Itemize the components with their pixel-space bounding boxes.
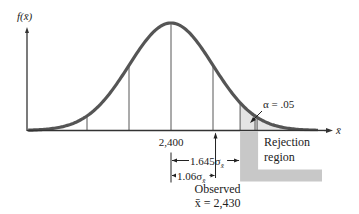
y-axis-arrow	[25, 27, 29, 33]
observed-label-line2: x̄ = 2,430	[195, 196, 241, 210]
observed-dim-arrow-left	[172, 174, 176, 178]
critical-dim-arrow-left	[172, 159, 177, 163]
observed-arrowhead	[214, 133, 218, 139]
critical-distance-subscript: x̄	[220, 162, 225, 170]
critical-dim-arrow-right	[234, 159, 239, 163]
rejection-label-line1: Rejection	[264, 135, 310, 149]
normal-distribution-chart: f(x̄) x̄ Rejectionregion 2,400α = .051.6…	[0, 0, 359, 214]
x-axis-label: x̄	[335, 124, 341, 136]
rejection-label-line2: region	[264, 150, 295, 164]
critical-distance-label: 1.645σx̄	[190, 155, 225, 170]
density-curve	[28, 23, 318, 130]
alpha-label: α = .05	[263, 98, 295, 110]
y-axis-label: f(x̄)	[17, 10, 33, 23]
mean-tick-label: 2,400	[159, 136, 184, 148]
x-axis-arrow	[326, 128, 333, 133]
observed-dim-arrow-right	[211, 174, 215, 178]
observed-label-line1: Observed	[195, 182, 241, 196]
